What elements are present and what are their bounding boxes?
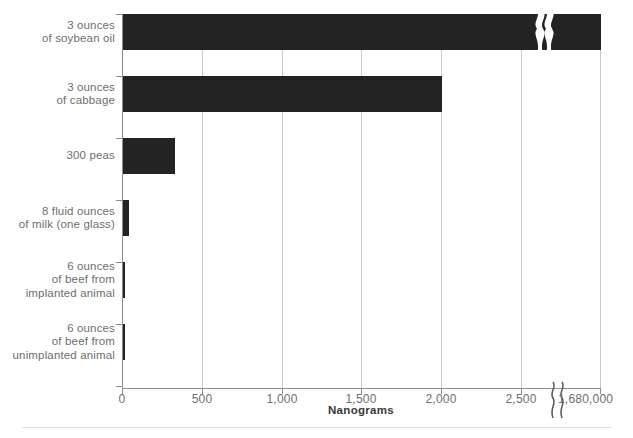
bar: [123, 324, 125, 360]
category-label-line: unimplanted animal: [0, 349, 115, 363]
chart-figure: 3 ouncesof soybean oil3 ouncesof cabbage…: [0, 0, 633, 438]
bar: [123, 138, 175, 174]
category-label-line: of cabbage: [0, 94, 115, 108]
footer-divider: [22, 427, 612, 428]
category-label-line: 8 fluid ounces: [0, 205, 115, 219]
category-label-line: of beef from: [0, 273, 115, 287]
category-label-line: 300 peas: [0, 149, 115, 163]
bar: [123, 262, 125, 298]
category-label: 3 ouncesof cabbage: [0, 81, 115, 108]
category-label: 6 ouncesof beef fromunimplanted animal: [0, 322, 115, 363]
category-label-line: 6 ounces: [0, 322, 115, 336]
category-label-line: implanted animal: [0, 287, 115, 301]
gridline: [282, 14, 283, 389]
category-label-line: 3 ounces: [0, 19, 115, 33]
bar: [123, 14, 601, 50]
bar: [123, 76, 442, 112]
category-label-line: of soybean oil: [0, 32, 115, 46]
plot-area: [122, 14, 600, 389]
gridline: [361, 14, 362, 389]
gridline: [521, 14, 522, 389]
category-label: 300 peas: [0, 149, 115, 163]
category-label-line: 6 ounces: [0, 260, 115, 274]
gridline: [441, 14, 442, 389]
category-label-line: of beef from: [0, 335, 115, 349]
category-label: 3 ouncesof soybean oil: [0, 19, 115, 46]
category-label: 6 ouncesof beef fromimplanted animal: [0, 260, 115, 301]
category-label-line: 3 ounces: [0, 81, 115, 95]
bar: [123, 200, 129, 236]
gridline: [600, 14, 601, 389]
x-axis-title: Nanograms: [122, 404, 600, 416]
category-label: 8 fluid ouncesof milk (one glass): [0, 205, 115, 232]
gridline: [202, 14, 203, 389]
y-axis-line: [122, 14, 123, 389]
category-label-line: of milk (one glass): [0, 218, 115, 232]
